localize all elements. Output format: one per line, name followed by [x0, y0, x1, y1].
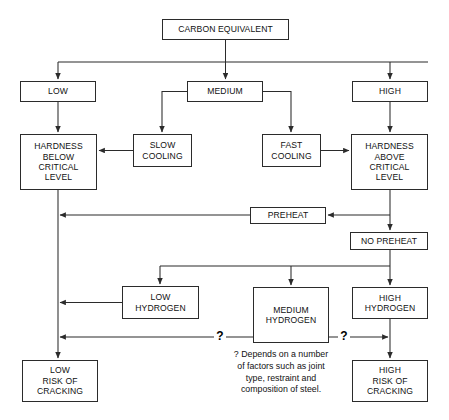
- node-preheat: PREHEAT: [250, 207, 326, 224]
- node-no-preheat: NO PREHEAT: [350, 232, 428, 250]
- flowchart-carbon-equivalent: CARBON EQUIVALENT LOW MEDIUM HIGH HARDNE…: [0, 0, 449, 420]
- node-carbon-equivalent: CARBON EQUIVALENT: [162, 19, 289, 40]
- node-low-risk-of-cracking: LOW RISK OF CRACKING: [22, 360, 98, 402]
- node-high-risk-of-cracking: HIGH RISK OF CRACKING: [352, 360, 428, 402]
- node-low-hydrogen: LOW HYDROGEN: [122, 286, 199, 319]
- node-low: LOW: [20, 81, 96, 102]
- node-medium-hydrogen: MEDIUM HYDROGEN: [253, 287, 329, 343]
- node-slow-cooling: SLOW COOLING: [133, 134, 192, 167]
- question-mark-left-icon: ?: [214, 330, 226, 342]
- node-hardness-above-critical-level: HARDNESS ABOVE CRITICAL LEVEL: [351, 134, 428, 190]
- node-high: HIGH: [352, 81, 428, 102]
- node-fast-cooling: FAST COOLING: [262, 134, 321, 167]
- node-hardness-below-critical-level: HARDNESS BELOW CRITICAL LEVEL: [20, 134, 97, 190]
- node-high-hydrogen: HIGH HYDROGEN: [352, 287, 428, 319]
- footnote-caption: ? Depends on a number of factors such as…: [222, 349, 340, 396]
- question-mark-right-icon: ?: [338, 330, 350, 342]
- node-medium: MEDIUM: [187, 81, 263, 102]
